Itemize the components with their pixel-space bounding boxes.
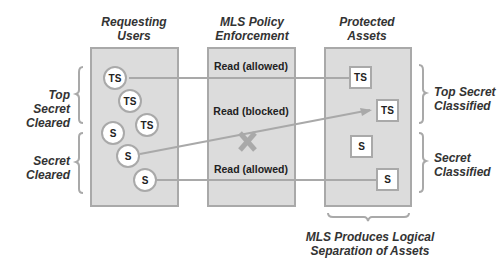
arrowhead-icon [360, 108, 372, 116]
left-brace-top [76, 67, 83, 123]
user-ts-2: TS [118, 89, 142, 113]
rule-read-allowed-bottom: Read (allowed) [207, 163, 295, 175]
connections-overlay [0, 0, 501, 265]
rule-read-allowed-top: Read (allowed) [207, 60, 295, 72]
blocked-x-icon [240, 133, 255, 150]
bottom-brace [328, 213, 409, 221]
rule-read-blocked: Read (blocked) [207, 105, 295, 117]
right-brace-top [419, 65, 426, 123]
asset-s-1: S [350, 135, 373, 158]
top-secret-classified-label: Top Secret Classified [434, 85, 501, 113]
asset-ts-2: TS [376, 99, 399, 122]
logical-separation-caption: MLS Produces Logical Separation of Asset… [300, 230, 440, 258]
user-s-3: S [133, 168, 157, 192]
user-ts-1: TS [103, 66, 127, 90]
left-brace-bottom [76, 133, 83, 193]
user-s-1: S [101, 121, 125, 145]
top-secret-cleared-label: Top Secret Cleared [10, 88, 70, 130]
secret-cleared-label: Secret Cleared [10, 154, 70, 182]
secret-classified-label: Secret Classified [434, 151, 501, 179]
user-ts-3: TS [135, 113, 159, 137]
asset-ts-1: TS [349, 66, 372, 89]
right-brace-bottom [419, 133, 426, 192]
user-s-2: S [116, 144, 140, 168]
asset-s-2: S [376, 168, 399, 191]
